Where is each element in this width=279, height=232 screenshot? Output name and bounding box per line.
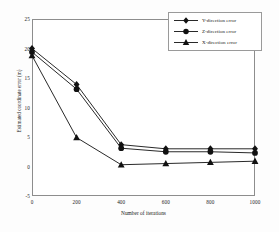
legend-item-circle: Z-direction error xyxy=(169,26,261,37)
legend-item-label: Y-direction error xyxy=(199,18,236,24)
x-tick-label: 1000 xyxy=(240,199,270,205)
data-point-marker xyxy=(252,158,259,164)
x-tick-label: 600 xyxy=(151,199,181,205)
series-circle xyxy=(29,49,258,156)
x-tick-label: 0 xyxy=(17,199,47,205)
data-point-marker xyxy=(208,149,214,155)
data-point-marker xyxy=(163,149,169,155)
legend-marker-triangle-icon xyxy=(173,37,199,48)
legend-marker-circle-icon xyxy=(173,26,199,37)
series-diamond xyxy=(29,45,258,152)
y-tick-label: 0 xyxy=(4,164,30,170)
legend-item-label: Z-direction error xyxy=(199,29,236,35)
y-tick-label: 25 xyxy=(4,16,30,22)
legend-item-label: X-direction error xyxy=(199,40,237,46)
y-axis-tick-labels: 2520151050-5 xyxy=(0,19,30,196)
data-point-marker xyxy=(252,150,258,156)
legend-item-diamond: Y-direction error xyxy=(169,15,261,26)
x-tick-label: 200 xyxy=(62,199,92,205)
chart-figure: 2520151050-5 02004006008001000 Estimated… xyxy=(0,0,279,232)
series-line xyxy=(32,49,255,149)
legend-item-triangle: X-direction error xyxy=(169,37,261,48)
x-tick-label: 400 xyxy=(106,199,136,205)
x-tick-label: 800 xyxy=(195,199,225,205)
data-point-marker xyxy=(74,86,80,92)
x-axis-title: Number of iterations xyxy=(32,210,255,217)
data-point-marker xyxy=(118,145,124,151)
data-point-marker xyxy=(73,134,80,140)
x-axis-tick-labels: 02004006008001000 xyxy=(32,199,255,209)
legend-marker-diamond-icon xyxy=(173,15,199,26)
chart-legend: Y-direction errorZ-direction errorX-dire… xyxy=(168,12,262,51)
y-axis-title: Estimated coordinate error (m) xyxy=(16,41,22,161)
series-line xyxy=(32,52,255,153)
